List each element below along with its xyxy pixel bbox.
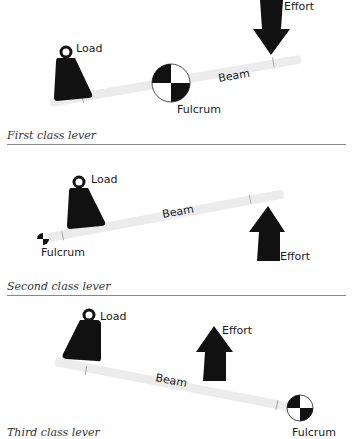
effort-label: Effort <box>280 250 311 263</box>
beam-label: Beam <box>161 202 195 221</box>
weight-icon <box>62 310 101 361</box>
load-label: Load <box>100 310 126 323</box>
panel-second-class: Load Fulcrum Beam Effort Second class le… <box>7 173 346 296</box>
lever-diagram: Load Fulcrum Beam Effort First class lev… <box>0 0 353 439</box>
effort-label: Effort <box>284 0 315 13</box>
fulcrum-icon <box>287 395 313 421</box>
weight-icon <box>54 47 92 101</box>
load-label: Load <box>91 173 117 186</box>
fulcrum-label: Fulcrum <box>41 246 85 259</box>
beam-label: Beam <box>154 371 188 390</box>
panel-third-class: Load Beam Effort Fulcrum Third class lev… <box>7 310 336 439</box>
effort-label: Effort <box>222 324 253 337</box>
caption: First class lever <box>6 129 97 142</box>
fulcrum-icon <box>152 64 190 102</box>
panel-first-class: Load Fulcrum Beam Effort First class lev… <box>6 0 346 145</box>
fulcrum-label: Fulcrum <box>177 103 221 116</box>
load-label: Load <box>76 42 102 55</box>
caption: Second class lever <box>7 280 111 293</box>
caption: Third class lever <box>7 426 101 439</box>
fulcrum-icon <box>37 233 49 245</box>
fulcrum-label: Fulcrum <box>292 426 336 439</box>
